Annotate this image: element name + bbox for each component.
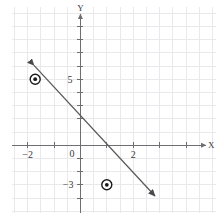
tick-label-y-neg-3: −3 [63, 179, 74, 190]
point-b-dot [105, 183, 109, 187]
point-a-dot [33, 77, 37, 81]
tick-label-origin: 0 [70, 148, 75, 159]
marked-point-a [30, 74, 40, 84]
x-axis-label: X [208, 140, 215, 150]
tick-label-y-5: 5 [68, 74, 73, 85]
y-axis-label: Y [77, 3, 84, 13]
marked-point-b [102, 180, 112, 190]
tick-label-x-2: 2 [131, 149, 136, 160]
graph-screenshot: X Y 0 −2 2 5 −3 [0, 0, 218, 219]
coordinate-plane-chart: X Y 0 −2 2 5 −3 [0, 0, 218, 219]
tick-label-x-neg-2: −2 [22, 149, 33, 160]
